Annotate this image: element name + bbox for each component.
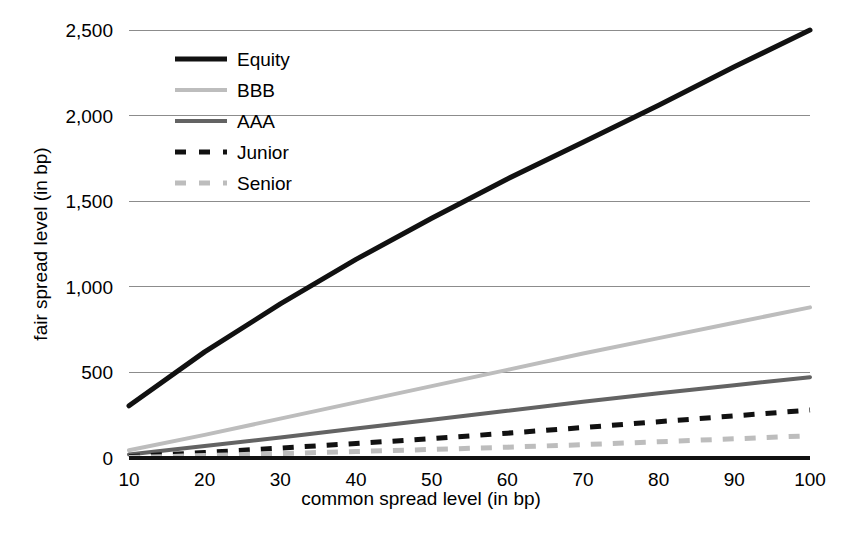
x-axis-tick-label: 20	[194, 469, 215, 490]
x-axis-tick-label: 60	[497, 469, 518, 490]
y-axis-tick-label: 2,000	[65, 106, 113, 127]
y-axis-title: fair spread level (in bp)	[30, 147, 51, 340]
x-axis-tick-label: 30	[270, 469, 291, 490]
series-line-equity	[129, 30, 810, 406]
series-line-bbb	[129, 307, 810, 450]
x-axis-tick-label: 80	[648, 469, 669, 490]
legend: EquityBBBAAAJuniorSenior	[175, 49, 293, 194]
y-axis-tick-label: 0	[102, 448, 113, 469]
x-axis-tick-label: 40	[345, 469, 366, 490]
legend-label-senior: Senior	[237, 173, 293, 194]
series-line-senior	[129, 436, 810, 458]
x-axis-title: common spread level (in bp)	[301, 488, 541, 509]
x-axis-tick-label: 50	[421, 469, 442, 490]
x-axis-tick-label: 70	[572, 469, 593, 490]
legend-label-aaa: AAA	[237, 111, 275, 132]
y-axis-tick-label: 500	[81, 362, 113, 383]
legend-label-bbb: BBB	[237, 80, 275, 101]
x-axis-tick-labels: 102030405060708090100	[118, 469, 825, 490]
x-axis-tick-label: 100	[794, 469, 826, 490]
y-axis-tick-label: 1,500	[65, 191, 113, 212]
y-axis-tick-labels: 05001,0001,5002,0002,500	[65, 20, 113, 469]
data-series-group	[129, 30, 810, 457]
chart-container: 05001,0001,5002,0002,500 102030405060708…	[0, 0, 843, 544]
legend-label-equity: Equity	[237, 49, 290, 70]
y-axis-tick-label: 2,500	[65, 20, 113, 41]
y-axis-tick-label: 1,000	[65, 277, 113, 298]
legend-label-junior: Junior	[237, 142, 289, 163]
x-axis-tick-label: 10	[118, 469, 139, 490]
x-axis-tick-label: 90	[724, 469, 745, 490]
line-chart: 05001,0001,5002,0002,500 102030405060708…	[0, 0, 843, 544]
